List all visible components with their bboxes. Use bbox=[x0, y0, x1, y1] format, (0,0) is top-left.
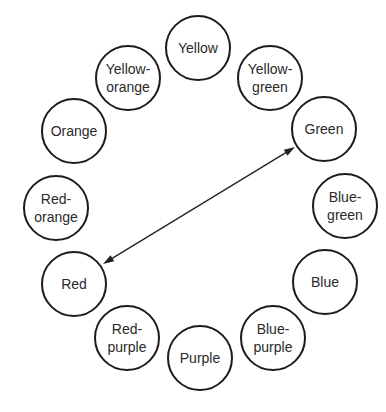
color-node-red: Red bbox=[42, 252, 106, 316]
node-label: Yellow- bbox=[248, 61, 293, 77]
node-label: Yellow bbox=[178, 40, 219, 56]
color-node-green: Green bbox=[292, 97, 356, 161]
arrow-shaft bbox=[111, 152, 288, 260]
circle-shape bbox=[95, 306, 159, 370]
color-node-orange: Orange bbox=[42, 99, 106, 163]
arrowhead-start-icon bbox=[103, 255, 114, 264]
node-label: Red- bbox=[41, 191, 72, 207]
node-label: purple bbox=[254, 339, 293, 355]
node-label: orange bbox=[34, 209, 78, 225]
node-label: Red bbox=[61, 276, 87, 292]
node-label: Blue- bbox=[257, 321, 290, 337]
node-label: purple bbox=[108, 339, 147, 355]
color-node-red-orange: Red-orange bbox=[24, 176, 88, 240]
node-label: Yellow- bbox=[106, 61, 151, 77]
color-node-blue-green: Blue-green bbox=[313, 174, 377, 238]
color-wheel-diagram: YellowYellow-greenGreenBlue-greenBlueBlu… bbox=[0, 0, 386, 412]
node-label: green bbox=[252, 79, 288, 95]
arrowhead-end-icon bbox=[284, 147, 295, 156]
circle-shape bbox=[238, 46, 302, 110]
node-label: Orange bbox=[51, 123, 98, 139]
node-label: orange bbox=[106, 79, 150, 95]
node-label: Red- bbox=[112, 321, 143, 337]
node-label: Blue- bbox=[329, 189, 362, 205]
circle-shape bbox=[313, 174, 377, 238]
complementary-arrows bbox=[103, 147, 295, 264]
color-nodes: YellowYellow-greenGreenBlue-greenBlueBlu… bbox=[24, 16, 377, 390]
color-node-blue: Blue bbox=[293, 250, 357, 314]
circle-shape bbox=[241, 306, 305, 370]
arrow-red-green bbox=[103, 147, 295, 264]
node-label: Green bbox=[305, 121, 344, 137]
node-label: Blue bbox=[311, 274, 339, 290]
color-node-blue-purple: Blue-purple bbox=[241, 306, 305, 370]
node-label: Purple bbox=[180, 350, 221, 366]
node-label: green bbox=[327, 207, 363, 223]
circle-shape bbox=[24, 176, 88, 240]
color-node-yellow-green: Yellow-green bbox=[238, 46, 302, 110]
color-node-purple: Purple bbox=[168, 326, 232, 390]
color-node-red-purple: Red-purple bbox=[95, 306, 159, 370]
color-node-yellow-orange: Yellow-orange bbox=[96, 46, 160, 110]
color-node-yellow: Yellow bbox=[166, 16, 230, 80]
circle-shape bbox=[96, 46, 160, 110]
